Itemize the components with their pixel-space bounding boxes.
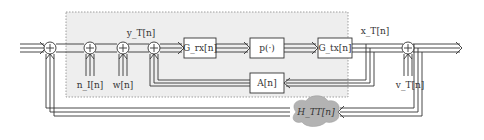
summing-junction-v: [402, 42, 414, 54]
summing-junction-a: [148, 42, 160, 54]
gtx-label: G_tx[n]: [318, 43, 351, 54]
grx-label: G_rx[n]: [183, 43, 217, 54]
a-label: A[n]: [256, 78, 276, 88]
p-label: p(·): [259, 43, 275, 53]
summing-junction-w: [117, 42, 129, 54]
x-signal-label: x_T[n]: [361, 26, 389, 37]
block-diagram: G_rx[n] p(·) G_tx[n] A[n] H_TT[n] y_T[n]…: [0, 0, 484, 140]
v-signal-label: v_T[n]: [395, 80, 424, 91]
y-signal-label: y_T[n]: [126, 28, 155, 39]
summing-junction-noise: [84, 42, 96, 54]
summing-junction-1: [44, 42, 56, 54]
w-signal-label: w[n]: [113, 80, 134, 90]
n-signal-label: n_I[n]: [77, 80, 104, 91]
htt-label: H_TT[n]: [296, 107, 335, 118]
